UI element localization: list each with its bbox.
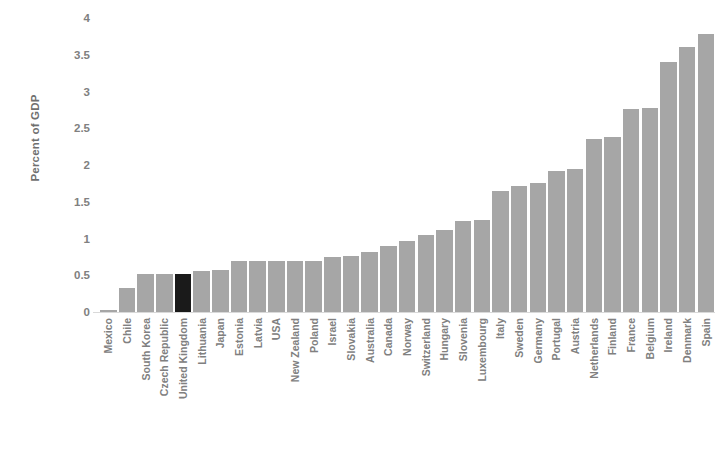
x-label-slot: Finland xyxy=(603,316,622,462)
x-label-slot: Hungary xyxy=(435,316,454,462)
bar-slot xyxy=(547,18,566,312)
bar[interactable] xyxy=(380,246,397,312)
bar[interactable] xyxy=(511,186,528,312)
bar[interactable] xyxy=(324,257,341,312)
bar[interactable] xyxy=(586,139,603,312)
bar[interactable] xyxy=(156,274,173,312)
x-label-slot: Denmark xyxy=(678,316,697,462)
x-label-slot: Israel xyxy=(323,316,342,462)
x-label-slot: Japan xyxy=(211,316,230,462)
bar[interactable] xyxy=(287,261,304,312)
bar-slot xyxy=(622,18,641,312)
bar[interactable] xyxy=(175,274,192,312)
bar[interactable] xyxy=(567,169,584,312)
x-label-slot: Belgium xyxy=(640,316,659,462)
bar-slot xyxy=(659,18,678,312)
y-axis-tick-label: 0.5 xyxy=(50,269,90,281)
x-label-slot: Australia xyxy=(360,316,379,462)
y-axis-tick-label: 2 xyxy=(50,159,90,171)
x-label-slot: Germany xyxy=(528,316,547,462)
x-axis-tick-label: Spain xyxy=(706,318,718,347)
bar[interactable] xyxy=(548,171,565,312)
bar[interactable] xyxy=(119,288,136,312)
bar-slot xyxy=(678,18,697,312)
y-axis-tick-labels: 00.511.522.533.54 xyxy=(50,0,90,462)
x-label-slot: Sweden xyxy=(510,316,529,462)
bar-slot xyxy=(697,18,716,312)
x-label-slot: Ireland xyxy=(659,316,678,462)
bar[interactable] xyxy=(623,109,640,312)
bar-slot xyxy=(248,18,267,312)
bar-slot xyxy=(491,18,510,312)
x-label-slot: Mexico xyxy=(99,316,118,462)
x-label-slot: Netherlands xyxy=(584,316,603,462)
x-label-slot: Switzerland xyxy=(416,316,435,462)
bar-slot xyxy=(136,18,155,312)
bar-slot xyxy=(360,18,379,312)
bar[interactable] xyxy=(492,191,509,312)
bar[interactable] xyxy=(399,241,416,312)
bar-slot xyxy=(454,18,473,312)
y-axis-tick-label: 2.5 xyxy=(50,122,90,134)
y-axis-tick-label: 0 xyxy=(50,306,90,318)
bar-slot xyxy=(640,18,659,312)
bar[interactable] xyxy=(604,137,621,312)
bar[interactable] xyxy=(231,261,248,312)
bar[interactable] xyxy=(343,256,360,312)
bar[interactable] xyxy=(660,62,677,312)
bar-slot xyxy=(99,18,118,312)
bar[interactable] xyxy=(137,274,154,312)
bar-slot xyxy=(416,18,435,312)
bar-slot xyxy=(118,18,137,312)
x-axis-tick-labels: MexicoChileSouth KoreaCzech RepublicUnit… xyxy=(99,316,715,462)
bar-slot xyxy=(398,18,417,312)
bar-slot xyxy=(155,18,174,312)
bar[interactable] xyxy=(436,230,453,312)
bar[interactable] xyxy=(212,270,229,312)
bar-slot xyxy=(566,18,585,312)
bar[interactable] xyxy=(268,261,285,312)
bar[interactable] xyxy=(679,47,696,312)
bar-slot xyxy=(323,18,342,312)
bar-series xyxy=(99,18,715,312)
y-axis-tick-label: 3.5 xyxy=(50,49,90,61)
bar-chart: Percent of GDP 00.511.522.533.54 MexicoC… xyxy=(0,0,721,462)
x-label-slot: New Zealand xyxy=(286,316,305,462)
bar[interactable] xyxy=(193,271,210,312)
bar[interactable] xyxy=(455,221,472,312)
bar-slot xyxy=(528,18,547,312)
bar[interactable] xyxy=(305,261,322,312)
bar[interactable] xyxy=(361,252,378,312)
x-label-slot: Austria xyxy=(566,316,585,462)
bar-slot xyxy=(304,18,323,312)
bar-slot xyxy=(211,18,230,312)
bar[interactable] xyxy=(698,34,715,312)
bar-slot xyxy=(379,18,398,312)
bar-slot xyxy=(174,18,193,312)
x-label-slot: Slovakia xyxy=(342,316,361,462)
bar-slot xyxy=(286,18,305,312)
bar-slot xyxy=(435,18,454,312)
bar-slot xyxy=(342,18,361,312)
x-label-slot: Czech Republic xyxy=(155,316,174,462)
x-label-slot: Portugal xyxy=(547,316,566,462)
x-label-slot: Poland xyxy=(304,316,323,462)
x-label-slot: South Korea xyxy=(136,316,155,462)
y-axis-tick-label: 1 xyxy=(50,233,90,245)
x-label-slot: Spain xyxy=(697,316,716,462)
bar[interactable] xyxy=(418,235,435,312)
bar-slot xyxy=(603,18,622,312)
y-axis-tick-label: 1.5 xyxy=(50,196,90,208)
bar[interactable] xyxy=(249,261,266,312)
bar-slot xyxy=(584,18,603,312)
plot-area xyxy=(99,18,715,312)
bar[interactable] xyxy=(642,108,659,312)
x-label-slot: Luxembourg xyxy=(472,316,491,462)
x-label-slot: Lithuania xyxy=(192,316,211,462)
x-label-slot: Canada xyxy=(379,316,398,462)
bar-slot xyxy=(230,18,249,312)
bar[interactable] xyxy=(474,220,491,312)
y-axis-tick-label: 4 xyxy=(50,12,90,24)
bar[interactable] xyxy=(530,183,547,312)
x-label-slot: USA xyxy=(267,316,286,462)
